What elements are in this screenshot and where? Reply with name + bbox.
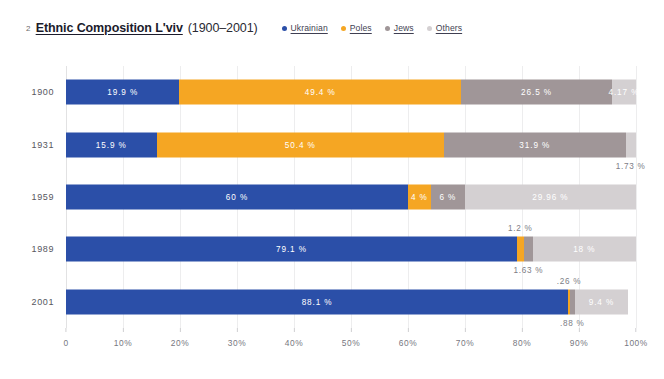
legend-item-label: Others <box>436 23 462 33</box>
chart-header: 2 Ethnic Composition L'viv (1900–2001) U… <box>0 0 664 56</box>
tick-mark <box>407 328 408 332</box>
bar-segment-others[interactable]: 29.96 % <box>465 184 636 209</box>
bar-segment-ukrainian[interactable]: 19.9 % <box>66 80 179 105</box>
bar-segment-poles[interactable]: 49.4 % <box>179 80 461 105</box>
x-axis-tick: 70% <box>456 328 474 348</box>
segment-value-label: 49.4 % <box>305 88 336 97</box>
gridline <box>636 66 637 328</box>
tick-mark <box>236 328 237 332</box>
bar-row: 193115.9 %50.4 %31.9 %1.73 % <box>66 118 636 170</box>
x-axis-tick-label: 30% <box>228 338 246 348</box>
segment-value-label: 18 % <box>573 245 595 254</box>
segment-value-label: 6 % <box>439 192 456 201</box>
stacked-bar[interactable]: 19.9 %49.4 %26.5 %4.17 % <box>66 80 636 105</box>
tick-mark <box>635 328 636 332</box>
segment-value-label: 15.9 % <box>96 140 127 149</box>
x-axis-tick: 20% <box>171 328 189 348</box>
x-axis-tick-label: 70% <box>456 338 474 348</box>
bar-segment-others[interactable]: 18 % <box>533 237 636 262</box>
x-axis-tick: 100% <box>624 328 647 348</box>
legend-swatch-icon <box>341 26 346 31</box>
segment-value-label: 9.4 % <box>589 297 614 306</box>
stacked-bar[interactable]: 15.9 %50.4 %31.9 %1.73 % <box>66 132 636 157</box>
bar-row: 190019.9 %49.4 %26.5 %4.17 % <box>66 66 636 118</box>
tick-mark <box>464 328 465 332</box>
tick-mark <box>65 328 66 332</box>
tick-mark <box>179 328 180 332</box>
chart-title-main: Ethnic Composition L'viv <box>36 21 183 35</box>
x-axis-tick: 50% <box>342 328 360 348</box>
x-axis-tick: 10% <box>114 328 132 348</box>
bar-segment-others[interactable] <box>626 132 636 157</box>
stacked-bar[interactable]: 60 %4 %6 %29.96 % <box>66 184 636 209</box>
tick-mark <box>521 328 522 332</box>
segment-value-label: 88.1 % <box>302 297 333 306</box>
segment-value-label: 26.5 % <box>521 88 552 97</box>
x-axis-tick: 80% <box>513 328 531 348</box>
segment-value-label: 79.1 % <box>276 245 307 254</box>
segment-value-label: 4.17 % <box>608 88 639 97</box>
segment-value-label: 19.9 % <box>107 88 138 97</box>
plot-area: 190019.9 %49.4 %26.5 %4.17 %193115.9 %50… <box>66 66 636 328</box>
x-axis-tick-label: 100% <box>624 338 647 348</box>
segment-value-label: 50.4 % <box>285 140 316 149</box>
figure-number: 2 <box>26 24 31 33</box>
bar-row: 198979.1 %1.2 %1.63 %18 % <box>66 223 636 275</box>
chart-legend: UkrainianPolesJewsOthers <box>282 23 463 33</box>
x-axis-tick: 40% <box>285 328 303 348</box>
row-label-1900: 1900 <box>32 87 54 97</box>
bar-segment-ukrainian[interactable]: 60 % <box>66 184 408 209</box>
legend-item-label: Ukrainian <box>291 23 328 33</box>
x-axis-tick: 0 <box>63 328 68 348</box>
legend-item-label: Jews <box>394 23 414 33</box>
segment-callout-label: .88 % <box>560 318 584 327</box>
row-label-1959: 1959 <box>32 192 54 202</box>
bar-row: 195960 %4 %6 %29.96 % <box>66 171 636 223</box>
legend-item-ukrainian[interactable]: Ukrainian <box>282 23 328 33</box>
legend-item-others[interactable]: Others <box>427 23 462 33</box>
bar-segment-poles[interactable]: 50.4 % <box>157 132 444 157</box>
segment-callout-label: 1.2 % <box>508 224 532 233</box>
row-label-1931: 1931 <box>32 140 54 150</box>
tick-mark <box>578 328 579 332</box>
bar-segment-others[interactable]: 9.4 % <box>575 289 629 314</box>
legend-item-label: Poles <box>350 23 372 33</box>
segment-value-label: 31.9 % <box>519 140 550 149</box>
bar-rows: 190019.9 %49.4 %26.5 %4.17 %193115.9 %50… <box>66 66 636 328</box>
page-title: Ethnic Composition L'viv (1900–2001) <box>36 21 258 35</box>
legend-item-poles[interactable]: Poles <box>341 23 372 33</box>
legend-swatch-icon <box>427 26 432 31</box>
bar-segment-poles[interactable] <box>517 237 524 262</box>
legend-item-jews[interactable]: Jews <box>385 23 414 33</box>
x-axis-tick-label: 90% <box>570 338 588 348</box>
bar-segment-jews[interactable]: 31.9 % <box>444 132 626 157</box>
row-label-1989: 1989 <box>32 244 54 254</box>
segment-value-label: 60 % <box>226 192 248 201</box>
segment-callout-label: 1.63 % <box>513 266 543 275</box>
bar-segment-ukrainian[interactable]: 15.9 % <box>66 132 157 157</box>
chart-title-years: (1900–2001) <box>188 21 258 35</box>
x-axis: 010%20%30%40%50%60%70%80%90%100% <box>66 328 636 358</box>
bar-segment-ukrainian[interactable]: 88.1 % <box>66 289 568 314</box>
bar-segment-jews[interactable]: 6 % <box>431 184 465 209</box>
stacked-bar[interactable]: 88.1 %.26 %.88 %9.4 % <box>66 289 636 314</box>
bar-segment-others[interactable]: 4.17 % <box>612 80 636 105</box>
x-axis-tick-label: 50% <box>342 338 360 348</box>
bar-row: 200188.1 %.26 %.88 %9.4 % <box>66 276 636 328</box>
tick-mark <box>293 328 294 332</box>
bar-segment-ukrainian[interactable]: 79.1 % <box>66 237 517 262</box>
x-axis-tick-label: 60% <box>399 338 417 348</box>
bar-segment-jews[interactable] <box>524 237 533 262</box>
segment-value-label: 4 % <box>411 192 428 201</box>
x-axis-tick: 30% <box>228 328 246 348</box>
x-axis-tick-label: 20% <box>171 338 189 348</box>
x-axis-tick-label: 0 <box>63 338 68 348</box>
bar-segment-jews[interactable]: 26.5 % <box>461 80 612 105</box>
x-axis-tick-label: 80% <box>513 338 531 348</box>
stacked-bar[interactable]: 79.1 %1.2 %1.63 %18 % <box>66 237 636 262</box>
bar-segment-poles[interactable]: 4 % <box>408 184 431 209</box>
x-axis-tick: 90% <box>570 328 588 348</box>
x-axis-tick-label: 40% <box>285 338 303 348</box>
x-axis-tick-label: 10% <box>114 338 132 348</box>
segment-value-label: 29.96 % <box>532 192 568 201</box>
